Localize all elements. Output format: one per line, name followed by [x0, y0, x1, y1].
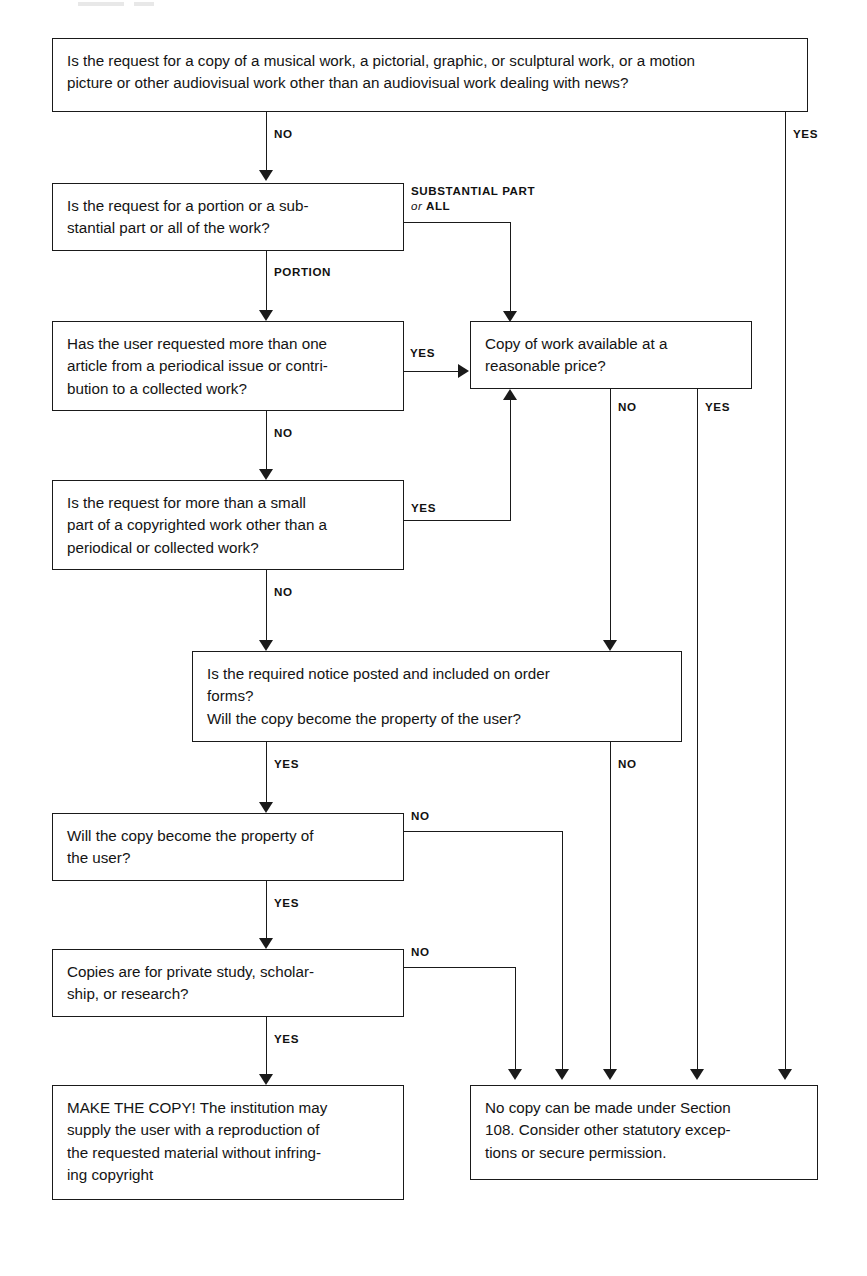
- edge-label-q2-substantial: SUBSTANTIAL PART or ALL: [411, 183, 535, 214]
- edge-q4-no-arrowhead: [603, 640, 617, 651]
- scan-artifact: [78, 2, 124, 6]
- node-q4-line2: reasonable price?: [485, 355, 739, 377]
- edge-q3-no-arrowhead: [259, 469, 273, 480]
- edge-label-q2-substantial-line1: SUBSTANTIAL PART: [411, 184, 535, 197]
- edge-q7-no-hline: [404, 831, 563, 832]
- node-q6-line3: Will the copy become the property of the…: [207, 708, 669, 730]
- node-q7-line2: the user?: [67, 847, 391, 869]
- node-q7-property-of-user-question[interactable]: Will the copy become the property of the…: [52, 813, 404, 881]
- edge-q7-no-vline: [562, 831, 563, 1074]
- node-q6-line1: Is the required notice posted and includ…: [207, 663, 669, 685]
- node-end-no-copy[interactable]: No copy can be made under Section 108. C…: [470, 1085, 818, 1180]
- node-q2-line1: Is the request for a portion or a sub-: [67, 195, 391, 217]
- node-q1-media-type-question[interactable]: Is the request for a copy of a musical w…: [52, 38, 808, 112]
- edge-q4-yes-arrowhead: [690, 1069, 704, 1080]
- edge-label-q8-yes: YES: [274, 1031, 299, 1046]
- edge-q8-yes-arrowhead: [259, 1074, 273, 1085]
- node-q3-multiple-articles-question[interactable]: Has the user requested more than one art…: [52, 321, 404, 411]
- edge-label-q7-yes: YES: [274, 895, 299, 910]
- edge-label-q4-no: NO: [618, 399, 637, 414]
- node-q1-line1: Is the request for a copy of a musical w…: [67, 50, 795, 72]
- edge-label-q6-yes: YES: [274, 756, 299, 771]
- node-end-yes-line3: the requested material without infring-: [67, 1142, 391, 1164]
- edge-q3-no-line: [266, 411, 267, 473]
- edge-q6-no-line: [610, 742, 611, 1074]
- node-q2-line2: stantial part or all of the work?: [67, 217, 391, 239]
- node-q7-line1: Will the copy become the property of: [67, 825, 391, 847]
- scan-artifact: [134, 2, 154, 6]
- edge-q1-yes-line: [785, 112, 786, 1074]
- edge-q1-yes-arrowhead: [778, 1069, 792, 1080]
- edge-label-q6-no: NO: [618, 756, 637, 771]
- edge-q8-no-arrowhead: [508, 1069, 522, 1080]
- node-end-make-the-copy[interactable]: MAKE THE COPY! The institution may suppl…: [52, 1085, 404, 1200]
- edge-q5-yes-vline: [510, 400, 511, 521]
- edge-label-q8-no: NO: [411, 944, 430, 959]
- edge-q5-yes-hline: [404, 520, 511, 521]
- node-end-no-line1: No copy can be made under Section: [485, 1097, 805, 1119]
- node-q4-line1: Copy of work available at a: [485, 333, 739, 355]
- edge-label-q3-yes: YES: [410, 345, 435, 360]
- node-q5-small-part-question[interactable]: Is the request for more than a small par…: [52, 480, 404, 570]
- edge-label-q3-no: NO: [274, 425, 293, 440]
- edge-q3-yes-arrowhead: [458, 364, 469, 378]
- edge-q3-yes-hline: [404, 371, 459, 372]
- node-end-no-line2: 108. Consider other statutory excep-: [485, 1119, 805, 1141]
- edge-q4-yes-line: [697, 389, 698, 1074]
- edge-label-q2-substantial-or: or: [411, 199, 423, 212]
- flowchart-canvas: Is the request for a copy of a musical w…: [0, 0, 867, 1276]
- edge-q2-substantial-vline: [510, 222, 511, 315]
- edge-label-q2-portion: PORTION: [274, 264, 331, 279]
- edge-label-q2-substantial-all: ALL: [426, 199, 450, 212]
- node-q5-line3: periodical or collected work?: [67, 537, 391, 559]
- node-q4-copy-available-question[interactable]: Copy of work available at a reasonable p…: [470, 321, 752, 389]
- edge-label-q5-yes: YES: [411, 500, 436, 515]
- edge-q5-no-arrowhead: [259, 640, 273, 651]
- node-q8-line1: Copies are for private study, scholar-: [67, 961, 391, 983]
- node-q2-portion-question[interactable]: Is the request for a portion or a sub- s…: [52, 183, 404, 251]
- edge-q7-no-arrowhead: [555, 1069, 569, 1080]
- edge-q2-portion-line: [266, 251, 267, 314]
- edge-q2-portion-arrowhead: [259, 310, 273, 321]
- edge-q1-no-line: [266, 112, 267, 174]
- edge-q8-no-vline: [515, 967, 516, 1074]
- edge-q8-no-hline: [404, 967, 516, 968]
- node-q6-line2: forms?: [207, 685, 669, 707]
- node-q8-line2: ship, or research?: [67, 983, 391, 1005]
- node-q1-line2: picture or other audiovisual work other …: [67, 72, 795, 94]
- edge-label-q4-yes: YES: [705, 399, 730, 414]
- edge-q5-yes-arrowhead: [503, 389, 517, 400]
- edge-q1-no-arrowhead: [259, 170, 273, 181]
- node-q3-line2: article from a periodical issue or contr…: [67, 355, 391, 377]
- node-end-yes-line2: supply the user with a reproduction of: [67, 1119, 391, 1141]
- edge-q8-yes-line: [266, 1017, 267, 1079]
- edge-q2-substantial-hline: [404, 222, 511, 223]
- node-q5-line2: part of a copyrighted work other than a: [67, 514, 391, 536]
- edge-q7-yes-line: [266, 881, 267, 943]
- node-q6-notice-posted-question[interactable]: Is the required notice posted and includ…: [192, 651, 682, 742]
- edge-label-q1-no: NO: [274, 126, 293, 141]
- edge-label-q1-yes: YES: [793, 126, 818, 141]
- node-end-yes-line1: MAKE THE COPY! The institution may: [67, 1097, 391, 1119]
- edge-q4-no-line: [610, 389, 611, 645]
- node-q5-line1: Is the request for more than a small: [67, 492, 391, 514]
- node-end-yes-line4: ing copyright: [67, 1164, 391, 1186]
- node-end-no-line3: tions or secure permission.: [485, 1142, 805, 1164]
- node-q8-private-study-question[interactable]: Copies are for private study, scholar- s…: [52, 949, 404, 1017]
- edge-q5-no-line: [266, 570, 267, 645]
- edge-q6-no-arrowhead: [603, 1069, 617, 1080]
- edge-q6-yes-arrowhead: [259, 802, 273, 813]
- edge-q7-yes-arrowhead: [259, 938, 273, 949]
- edge-label-q7-no: NO: [411, 808, 430, 823]
- node-q3-line1: Has the user requested more than one: [67, 333, 391, 355]
- node-q3-line3: bution to a collected work?: [67, 378, 391, 400]
- edge-label-q5-no: NO: [274, 584, 293, 599]
- edge-q6-yes-line: [266, 742, 267, 807]
